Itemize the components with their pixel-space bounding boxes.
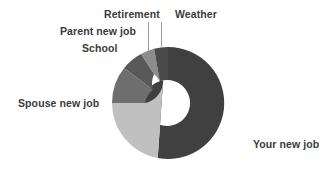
slice-label-your-new-job: Your new job (253, 138, 319, 150)
slice-label-school: School (82, 42, 118, 54)
slice-label-retirement: Retirement (104, 8, 160, 20)
donut-slices (112, 47, 224, 159)
donut-chart-svg (0, 0, 334, 191)
donut-chart-page: Retirement Weather Parent new job School… (0, 0, 334, 191)
slice-label-weather: Weather (175, 8, 217, 20)
slice-label-spouse-new-job: Spouse new job (18, 97, 99, 109)
leader-lines (149, 22, 162, 51)
slice-label-parent-new-job: Parent new job (60, 25, 136, 37)
